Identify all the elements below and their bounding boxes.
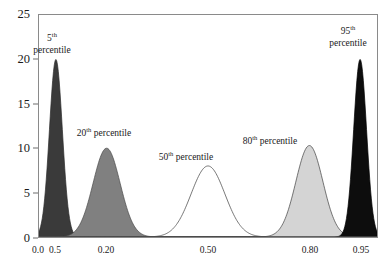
curve-label-ordinal: 80th xyxy=(243,136,258,146)
y-tick-label: 20 xyxy=(18,53,31,66)
density-chart-figure: 0510152025 0.00.50.200.500.800.95 5thper… xyxy=(0,0,391,265)
curve-label-tail: percentile xyxy=(33,45,70,57)
curve-label: 95thpercentile xyxy=(329,26,366,49)
x-tick-label: 0.5 xyxy=(49,246,61,256)
ordinal-suffix: th xyxy=(52,31,57,38)
curve-label: 80th percentile xyxy=(243,136,297,148)
curve-label-ordinal: 95th xyxy=(329,26,366,38)
y-tick-label: 25 xyxy=(18,8,31,21)
curve-label: 5thpercentile xyxy=(33,33,70,56)
x-tick-label: 0.20 xyxy=(98,246,115,256)
x-tick-label: 0.95 xyxy=(353,246,370,256)
y-tick-label: 0 xyxy=(24,232,30,245)
x-tick-label: 0.50 xyxy=(200,246,217,256)
y-tick-label: 15 xyxy=(18,97,31,110)
x-tick-label: 0.80 xyxy=(302,246,319,256)
curve-label-tail: percentile xyxy=(257,136,297,146)
curve-label-tail: percentile xyxy=(173,152,213,162)
x-tick-label: 0.0 xyxy=(32,246,44,256)
curve-label-ordinal: 5th xyxy=(33,33,70,45)
curve-label: 50th percentile xyxy=(159,152,213,164)
curve-label: 20th percentile xyxy=(77,128,131,140)
ordinal-suffix: th xyxy=(350,24,355,31)
y-tick-label: 10 xyxy=(18,142,31,155)
curve-label-tail: percentile xyxy=(329,38,366,50)
y-tick-label: 5 xyxy=(24,187,30,200)
curve-label-ordinal: 50th xyxy=(159,152,174,162)
curve-label-tail: percentile xyxy=(91,128,131,138)
curve-label-ordinal: 20th xyxy=(77,128,92,138)
